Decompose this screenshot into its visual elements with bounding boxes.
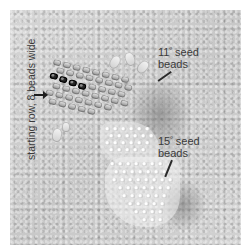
starting-row-label: starting row, 8 beads wide: [25, 39, 37, 160]
seed-11-number: 11: [158, 46, 169, 58]
clear-bead: [107, 53, 123, 70]
seed-15-number: 15: [158, 135, 170, 147]
clear-bead: [135, 58, 152, 75]
bead-photo: [10, 10, 241, 245]
seed-11-text2: beads: [158, 58, 188, 70]
seed-11-label: 11º seed beads: [158, 44, 199, 70]
seed-15-label: 15º seed beads: [158, 133, 200, 159]
seed-15-text2: beads: [158, 147, 188, 159]
clear-bead: [123, 51, 137, 68]
arrow-icon: [34, 94, 44, 96]
drop-bead: [62, 122, 70, 132]
drop-bead: [51, 127, 63, 143]
seed-11-text: seed: [172, 46, 199, 58]
seed-15-text: seed: [173, 135, 200, 147]
